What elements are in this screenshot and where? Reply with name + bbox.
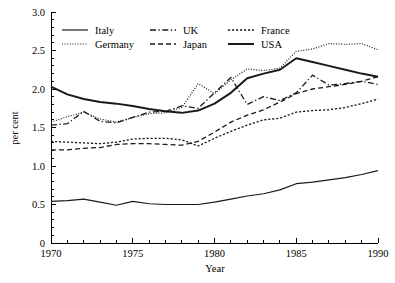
legend-label-uk: UK — [183, 25, 199, 36]
x-axis-title: Year — [205, 263, 225, 274]
x-tick-label: 1990 — [368, 248, 389, 259]
line-chart: 00.51.01.52.02.53.0 19701975198019851990… — [0, 0, 395, 283]
y-tick-label: 3.0 — [32, 7, 45, 18]
y-tick-label: 0 — [40, 238, 45, 249]
legend-label-france: France — [261, 25, 290, 36]
legend-label-japan: Japan — [183, 39, 208, 50]
legend-label-italy: Italy — [95, 25, 115, 36]
y-tick-label: 1.0 — [32, 161, 45, 172]
y-tick-label: 2.5 — [32, 45, 45, 56]
legend-label-germany: Germany — [95, 39, 135, 50]
x-tick-label: 1985 — [286, 248, 307, 259]
y-tick-label: 1.5 — [32, 122, 45, 133]
y-tick-label: 0.5 — [32, 199, 45, 210]
chart-canvas: 00.51.01.52.02.53.0 19701975198019851990… — [0, 0, 395, 283]
x-tick-label: 1980 — [204, 248, 225, 259]
y-axis-title: per cent — [9, 111, 20, 145]
y-tick-label: 2.0 — [32, 84, 45, 95]
x-tick-label: 1970 — [41, 248, 62, 259]
legend-label-usa: USA — [261, 39, 282, 50]
x-tick-label: 1975 — [122, 248, 143, 259]
